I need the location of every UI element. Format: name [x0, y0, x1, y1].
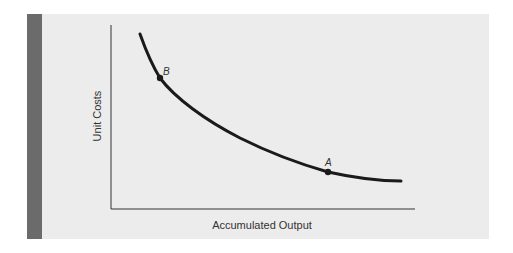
x-axis-label: Accumulated Output	[212, 219, 312, 231]
y-axis-label: Unit Costs	[91, 91, 103, 142]
chart-canvas	[0, 0, 513, 253]
point-a-label: A	[325, 157, 332, 168]
experience-curve	[140, 34, 401, 181]
point-a-marker	[325, 169, 331, 175]
point-b-label: B	[163, 66, 170, 77]
